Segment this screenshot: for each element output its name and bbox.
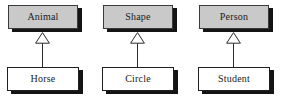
subclass-shadow-bottom [11,91,83,94]
inheritance-group: Shape Circle [95,0,190,100]
connector-line [137,43,138,67]
subclass-shadow-bottom [202,91,274,94]
subclass-label: Circle [125,74,151,84]
subclass-box-student[interactable]: Student [198,67,270,91]
superclass-box-animal[interactable]: Animal [8,5,78,29]
subclass-box-circle[interactable]: Circle [102,67,174,91]
hollow-triangle-arrowhead-icon [130,32,146,44]
generalization-connector [226,32,242,67]
connector-line [233,43,234,67]
superclass-label: Shape [125,12,150,22]
superclass-label: Animal [27,12,58,22]
generalization-connector [130,32,146,67]
subclass-shadow-bottom [106,91,178,94]
generalization-connector [35,32,51,67]
hollow-triangle-arrowhead-icon [35,32,51,44]
subclass-label: Horse [31,74,56,84]
inheritance-group: Person Student [191,0,286,100]
inheritance-group: Animal Horse [0,0,95,100]
hollow-triangle-arrowhead-icon [226,32,242,44]
superclass-label: Person [220,12,248,22]
uml-diagram-canvas: Animal Horse Shape [0,0,286,100]
superclass-box-shape[interactable]: Shape [103,5,173,29]
subclass-label: Student [218,74,250,84]
subclass-box-horse[interactable]: Horse [7,67,79,91]
connector-line [42,43,43,67]
superclass-box-person[interactable]: Person [199,5,269,29]
